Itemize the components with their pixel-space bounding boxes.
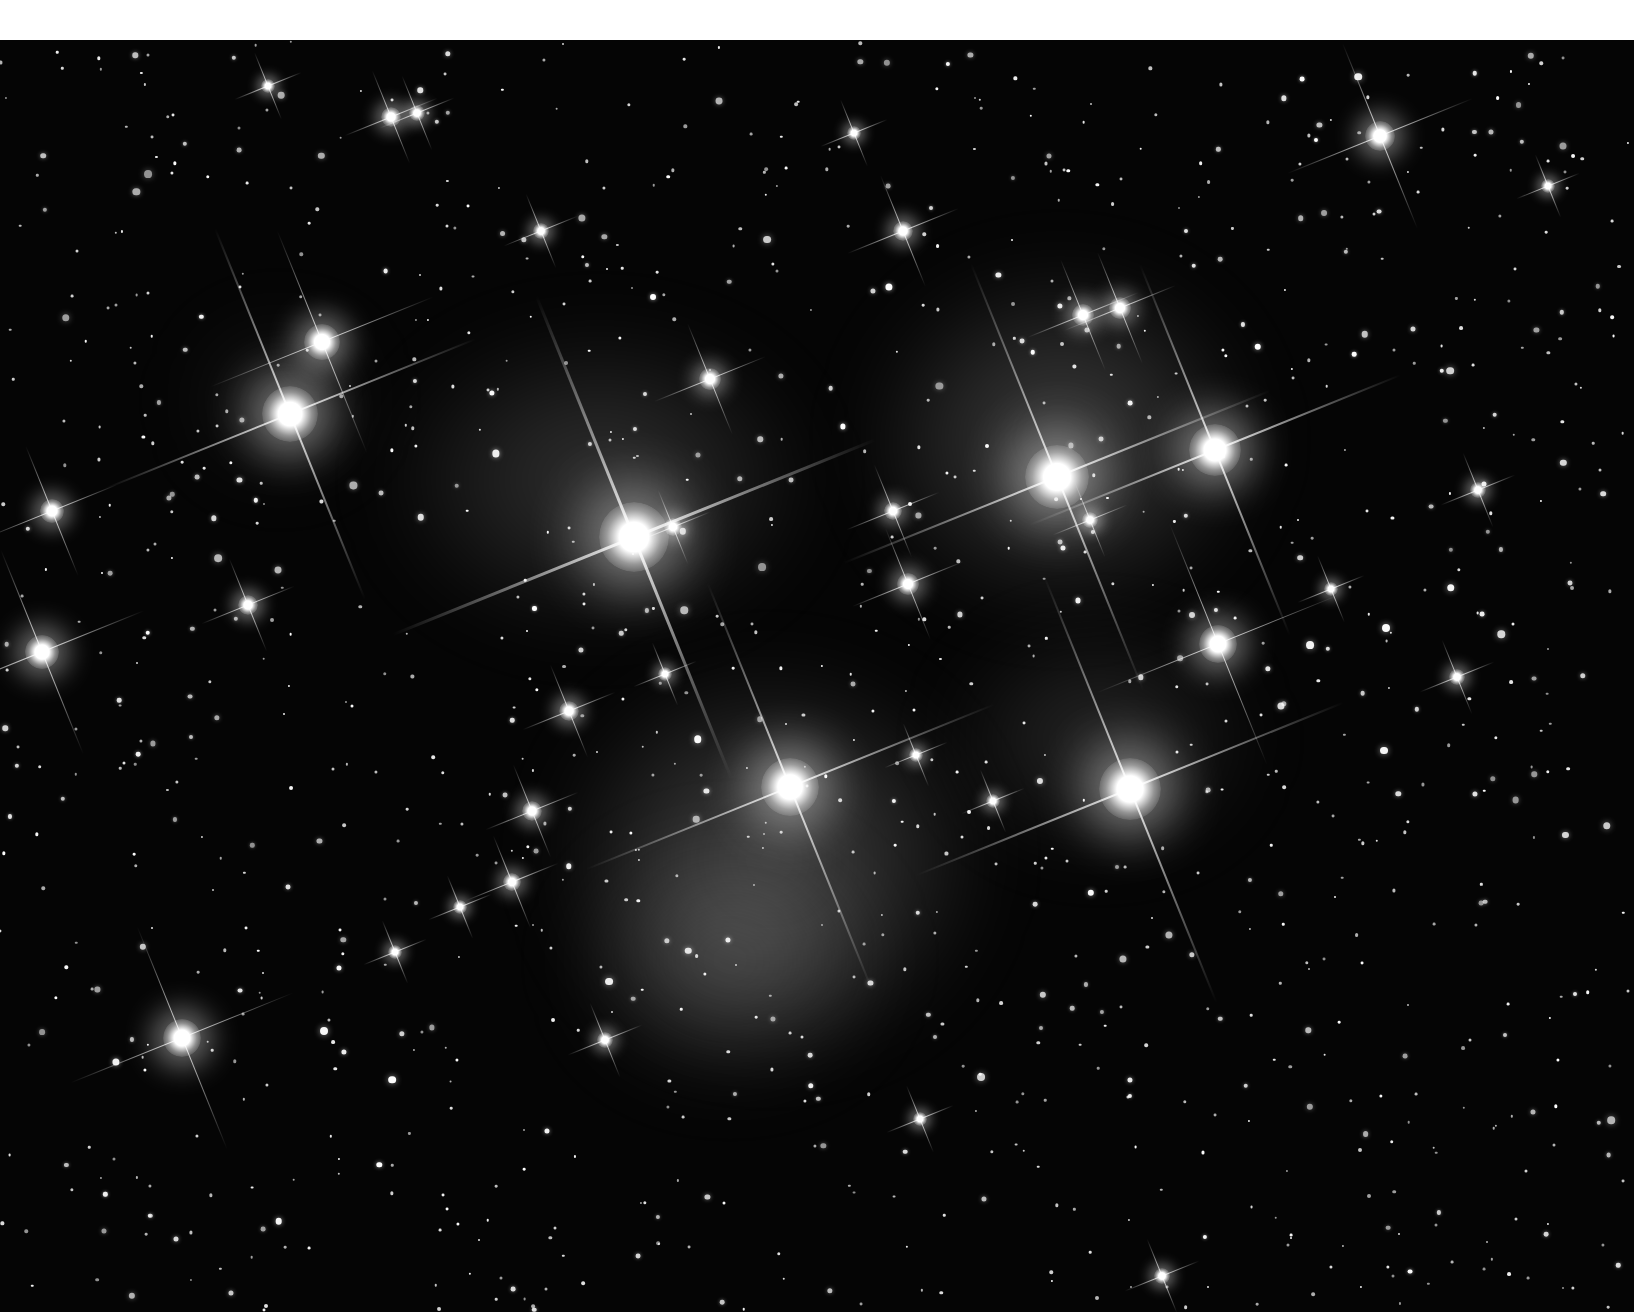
- faint-star: [1152, 584, 1154, 586]
- faint-star: [850, 682, 855, 687]
- faint-star: [780, 831, 783, 834]
- faint-star: [1250, 1014, 1253, 1017]
- faint-star: [957, 612, 962, 617]
- faint-star: [262, 657, 265, 660]
- diffraction-spike: [903, 723, 929, 786]
- faint-star: [61, 67, 63, 69]
- faint-star: [1368, 613, 1370, 615]
- faint-star: [243, 871, 245, 873]
- faint-star: [1184, 514, 1188, 518]
- faint-star: [166, 115, 169, 118]
- faint-star: [1234, 617, 1237, 620]
- faint-star: [466, 509, 469, 512]
- diffraction-spike: [1297, 575, 1364, 603]
- faint-star: [547, 531, 549, 533]
- faint-star: [136, 752, 141, 757]
- faint-star: [414, 901, 418, 905]
- faint-star: [1348, 586, 1351, 589]
- faint-star: [574, 1155, 576, 1157]
- faint-star: [151, 335, 154, 338]
- star-core: [1449, 669, 1465, 685]
- faint-star: [1221, 788, 1224, 791]
- faint-star: [1459, 326, 1463, 330]
- faint-star: [1298, 216, 1304, 222]
- faint-star: [270, 618, 274, 622]
- diffraction-spike: [654, 356, 766, 402]
- faint-star: [641, 988, 644, 991]
- faint-star: [460, 822, 463, 825]
- faint-star: [568, 807, 572, 811]
- faint-star: [458, 956, 460, 958]
- faint-star: [1297, 519, 1299, 521]
- faint-star: [1546, 770, 1549, 773]
- faint-star: [609, 438, 612, 441]
- faint-star: [1403, 831, 1406, 834]
- faint-star: [479, 428, 481, 430]
- faint-star: [732, 667, 735, 670]
- faint-star: [495, 1185, 498, 1188]
- nebula-glow: [950, 630, 1250, 850]
- faint-star: [1391, 516, 1394, 519]
- faint-star: [441, 771, 444, 774]
- faint-star: [515, 924, 518, 927]
- faint-star: [1498, 630, 1505, 637]
- faint-star: [245, 927, 248, 930]
- faint-star: [1360, 1286, 1362, 1288]
- faint-star: [1365, 509, 1368, 512]
- faint-star: [881, 933, 884, 936]
- faint-star: [1417, 190, 1420, 193]
- faint-star: [263, 1308, 266, 1311]
- faint-star: [721, 623, 724, 626]
- faint-star: [1413, 362, 1416, 365]
- faint-star: [260, 997, 263, 1000]
- faint-star: [1057, 303, 1062, 308]
- faint-star: [100, 68, 102, 70]
- faint-star: [553, 1227, 556, 1230]
- faint-star: [523, 1298, 526, 1301]
- faint-star: [1376, 839, 1378, 841]
- faint-star: [70, 1188, 73, 1191]
- faint-star: [1070, 1006, 1075, 1011]
- faint-star: [585, 263, 589, 267]
- faint-star: [821, 924, 823, 926]
- faint-star: [765, 821, 767, 823]
- faint-star: [189, 1231, 192, 1234]
- faint-star: [1049, 170, 1051, 172]
- faint-star: [1321, 210, 1327, 216]
- faint-star: [1250, 1205, 1253, 1208]
- faint-star: [1403, 1053, 1408, 1058]
- star-core: [522, 801, 542, 821]
- faint-star: [212, 889, 214, 891]
- faint-star: [1344, 449, 1346, 451]
- faint-star: [750, 622, 753, 625]
- faint-star: [643, 1201, 646, 1204]
- faint-star: [1554, 1105, 1557, 1108]
- faint-star: [413, 379, 417, 383]
- faint-star: [967, 255, 970, 258]
- faint-star: [1549, 1017, 1551, 1019]
- faint-star: [139, 385, 142, 388]
- faint-star: [1334, 896, 1336, 898]
- faint-star: [726, 1050, 729, 1053]
- faint-star: [677, 1179, 679, 1181]
- faint-star: [1474, 923, 1477, 926]
- faint-star: [1479, 901, 1484, 906]
- faint-star: [1299, 162, 1302, 165]
- faint-star: [588, 442, 592, 446]
- faint-star: [435, 1284, 437, 1286]
- faint-star: [1284, 289, 1286, 291]
- faint-star: [1495, 1125, 1497, 1127]
- faint-star: [716, 97, 723, 104]
- faint-star: [1527, 1276, 1530, 1279]
- faint-star: [1507, 300, 1510, 303]
- faint-star: [1097, 1067, 1100, 1070]
- faint-star: [203, 467, 206, 470]
- faint-star: [1560, 996, 1563, 999]
- faint-star: [62, 419, 65, 422]
- faint-star: [1486, 1241, 1488, 1243]
- faint-star: [788, 1032, 791, 1035]
- faint-star: [74, 773, 76, 775]
- faint-star: [1420, 147, 1423, 150]
- faint-star: [873, 872, 876, 875]
- faint-star: [383, 672, 386, 675]
